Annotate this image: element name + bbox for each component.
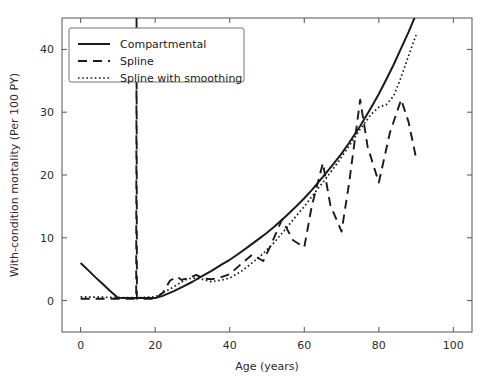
line-chart: 020406080100 010203040 Age (years) With-… [0, 0, 497, 388]
y-tick-label: 30 [40, 106, 54, 119]
x-tick-label: 60 [297, 339, 311, 352]
chart-figure: 020406080100 010203040 Age (years) With-… [0, 0, 497, 388]
x-axis-label: Age (years) [235, 360, 299, 373]
y-tick-label: 20 [40, 169, 54, 182]
chart-legend: CompartmentalSplineSpline with smoothing [69, 28, 244, 85]
x-tick-label: 0 [77, 339, 84, 352]
y-tick-label: 40 [40, 43, 54, 56]
legend-label-solid: Compartmental [120, 38, 206, 51]
y-tick-label: 10 [40, 232, 54, 245]
x-tick-label: 20 [148, 339, 162, 352]
legend-label-dashed: Spline [120, 55, 154, 68]
y-axis-label: With-condition mortality (Per 100 PY) [8, 73, 21, 277]
x-tick-label: 100 [443, 339, 464, 352]
y-tick-label: 0 [47, 295, 54, 308]
legend-label-dotted: Spline with smoothing [120, 72, 242, 85]
x-tick-label: 80 [372, 339, 386, 352]
x-tick-label: 40 [223, 339, 237, 352]
